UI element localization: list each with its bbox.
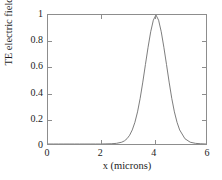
x-tick-label: 2 (88, 147, 112, 158)
curve-path (48, 15, 206, 144)
data-curve (48, 15, 206, 144)
x-tick-mark (101, 15, 102, 19)
x-tick-label: 4 (142, 147, 166, 158)
y-tick-mark (48, 94, 52, 95)
y-axis-title: TE electric field (3, 0, 14, 92)
x-axis-title: x (microns) (47, 160, 207, 171)
y-tick-mark (202, 120, 206, 121)
x-tick-label: 0 (35, 147, 59, 158)
plot-area (47, 14, 207, 145)
y-tick-mark (202, 94, 206, 95)
y-tick-label: 0.6 (17, 61, 43, 71)
y-tick-mark (48, 67, 52, 68)
y-tick-mark (202, 41, 206, 42)
x-tick-mark (155, 140, 156, 144)
x-tick-label: 6 (195, 147, 219, 158)
y-tick-label: 0.8 (17, 35, 43, 45)
y-tick-mark (48, 120, 52, 121)
y-tick-mark (202, 67, 206, 68)
y-tick-mark (48, 41, 52, 42)
x-tick-mark (101, 140, 102, 144)
y-tick-label: 0.4 (17, 88, 43, 98)
y-tick-label: 1 (17, 9, 43, 19)
y-tick-label: 0.2 (17, 114, 43, 124)
chart-figure: TE electric field 00.20.40.60.81 0246 x … (0, 0, 222, 180)
x-tick-mark (155, 15, 156, 19)
